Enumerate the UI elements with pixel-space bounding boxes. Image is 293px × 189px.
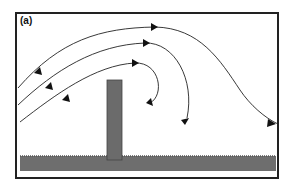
streamline-middle bbox=[18, 43, 189, 118]
streamline-outer bbox=[18, 27, 278, 124]
airflow-diagram bbox=[0, 0, 293, 189]
barrier bbox=[107, 80, 122, 160]
ground bbox=[20, 156, 276, 171]
